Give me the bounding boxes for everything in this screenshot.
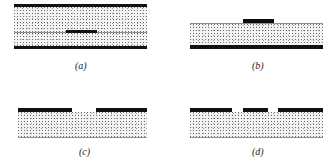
panel-a-bottom-black-band	[14, 46, 147, 49]
panel-b-stipple-layer	[190, 24, 323, 45]
panel-a-lower-stipple-layer	[14, 33, 147, 46]
panel-b-bottom-black-band	[190, 45, 323, 49]
panel-a	[14, 4, 147, 49]
panel-c-bottom-hairline	[18, 137, 147, 138]
panel-c-stipple-layer	[18, 112, 147, 137]
panel-d	[190, 108, 323, 140]
panel-c	[18, 108, 147, 140]
panel-a-upper-stipple-layer	[14, 7, 147, 32]
panel-c-label: (c)	[79, 146, 90, 158]
panel-b	[190, 19, 323, 49]
panel-a-artwork	[14, 4, 147, 49]
figure-root: (a)(b)(c)(d)	[0, 0, 335, 166]
panel-c-artwork	[18, 108, 147, 140]
panel-a-label: (a)	[75, 60, 87, 72]
panel-b-label: (b)	[252, 60, 264, 72]
panel-d-bottom-hairline	[190, 137, 323, 138]
panel-d-stipple-layer	[190, 112, 323, 137]
panel-d-artwork	[190, 108, 323, 140]
panel-d-label: (d)	[252, 146, 264, 158]
panel-b-artwork	[190, 19, 323, 49]
